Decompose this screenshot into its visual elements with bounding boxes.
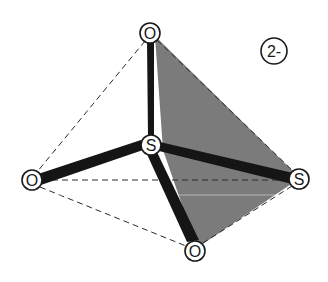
bond-s-oleft (35, 140, 143, 186)
charge-label: 2- (267, 43, 281, 60)
thiosulfate-diagram: O S O S O 2- (0, 0, 328, 282)
atom-o-top: O (140, 23, 160, 43)
atom-label: O (144, 25, 156, 42)
atom-label: S (146, 137, 157, 154)
atom-s-right: S (289, 169, 309, 189)
atom-s-center: S (141, 135, 161, 155)
atom-o-bottom: O (185, 241, 205, 261)
atom-label: O (26, 172, 38, 189)
atom-o-left: O (22, 170, 42, 190)
atom-label: O (189, 243, 201, 260)
charge-badge: 2- (261, 38, 287, 64)
edge-oleft-obottom (40, 187, 186, 246)
atom-label: S (294, 171, 305, 188)
bond-s-otop (147, 40, 154, 136)
